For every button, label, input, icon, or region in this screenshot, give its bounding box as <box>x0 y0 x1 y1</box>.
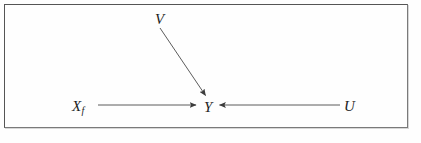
node-label-xf: Xf <box>72 99 84 116</box>
figure-canvas: V Xf Y U <box>0 0 421 143</box>
node-v-text: V <box>155 11 164 27</box>
node-label-y: Y <box>204 100 213 115</box>
node-u-text: U <box>344 98 355 114</box>
node-y-text: Y <box>204 99 213 115</box>
node-label-u: U <box>344 99 355 114</box>
node-xf-text: X <box>72 98 81 114</box>
node-label-v: V <box>155 12 164 27</box>
node-xf-subscript: f <box>81 105 84 116</box>
